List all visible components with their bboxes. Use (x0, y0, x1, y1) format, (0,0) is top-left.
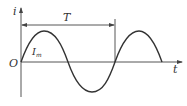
amplitude-label: Im (31, 46, 42, 58)
period-label: T (63, 11, 72, 24)
origin-label: O (9, 57, 18, 70)
sine-wave-diagram: i t O T Im (0, 0, 187, 106)
amplitude-subscript: m (36, 51, 42, 58)
y-axis-label: i (13, 5, 17, 18)
diagram-canvas: i t O T Im (0, 0, 187, 106)
x-axis-label: t (173, 63, 178, 76)
